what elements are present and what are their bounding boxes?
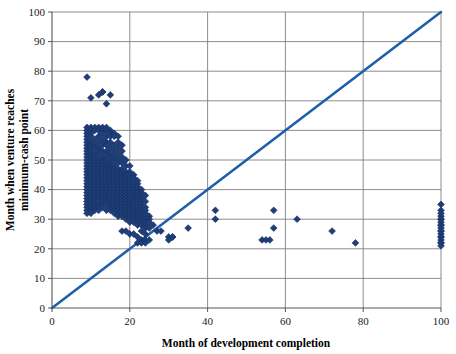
y-tick-label: 20	[34, 243, 46, 255]
y-tick-label: 10	[34, 272, 46, 284]
x-tick-label: 0	[49, 315, 55, 327]
scatter-chart: 020406080100 0102030405060708090100 Mont…	[0, 0, 456, 354]
y-tick-label: 0	[40, 302, 46, 314]
chart-canvas: 020406080100 0102030405060708090100 Mont…	[0, 0, 456, 354]
y-tick-label: 50	[34, 154, 46, 166]
y-tick-label: 90	[34, 35, 46, 47]
y-axis-title-line1: Month when venture reaches	[4, 88, 16, 231]
y-tick-label: 70	[34, 95, 46, 107]
y-axis-title-line2: minimum-cash point	[18, 109, 31, 211]
y-tick-label: 80	[34, 65, 46, 77]
x-tick-label: 80	[358, 315, 370, 327]
y-tick-label: 60	[34, 124, 46, 136]
y-tick-label: 40	[34, 183, 46, 195]
y-tick-label: 100	[29, 6, 46, 18]
x-tick-label: 60	[280, 315, 292, 327]
x-tick-label: 40	[202, 315, 214, 327]
y-tick-label: 30	[34, 213, 46, 225]
x-axis-title: Month of development completion	[162, 337, 331, 350]
x-tick-label: 20	[124, 315, 136, 327]
x-tick-label: 100	[433, 315, 450, 327]
